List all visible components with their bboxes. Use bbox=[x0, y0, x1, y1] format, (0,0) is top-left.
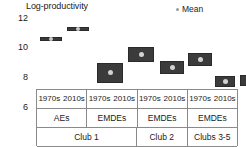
group-cell-aes: AEs bbox=[37, 108, 87, 127]
box-emdes-club1-2010s bbox=[128, 47, 154, 62]
group-cell-emdes-club2: EMDEs bbox=[138, 108, 188, 127]
mean-dot bbox=[108, 70, 113, 75]
period-cell: 1970s bbox=[138, 89, 163, 108]
legend-label-mean: Mean bbox=[182, 4, 203, 14]
category-table: 1970s 2010s 1970s 2010s 1970s 2010s 1970… bbox=[36, 89, 238, 146]
box-aes-2010s bbox=[67, 27, 89, 32]
period-cell: 2010s bbox=[62, 89, 88, 108]
y-tick-12: 12 bbox=[12, 13, 28, 23]
mean-dot bbox=[139, 52, 144, 57]
period-cell: 2010s bbox=[162, 89, 188, 108]
log-productivity-chart: Log-productivity Mean 12 10 8 6 bbox=[0, 0, 246, 147]
mean-dot bbox=[49, 37, 53, 41]
mean-marker-icon bbox=[176, 8, 179, 11]
period-cell: 2010s bbox=[212, 89, 237, 108]
period-row: 1970s 2010s 1970s 2010s 1970s 2010s 1970… bbox=[37, 89, 237, 108]
box-emdes-clubs35-2010s bbox=[240, 75, 246, 86]
period-cell: 2010s bbox=[112, 89, 138, 108]
club-cell-35: Clubs 3-5 bbox=[188, 127, 238, 146]
y-axis-title: Log-productivity bbox=[26, 1, 88, 11]
box-emdes-club2-2010s bbox=[188, 53, 212, 67]
mean-dot bbox=[198, 57, 203, 62]
y-tick-10: 10 bbox=[12, 42, 28, 52]
legend: Mean bbox=[176, 4, 203, 14]
box-emdes-club1-1970s bbox=[97, 63, 123, 84]
box-emdes-club2-1970s bbox=[160, 61, 184, 75]
mean-dot bbox=[223, 79, 228, 84]
club-cell-2: Club 2 bbox=[137, 127, 188, 146]
club-cell-1: Club 1 bbox=[37, 127, 137, 146]
group-cell-emdes-club1: EMDEs bbox=[87, 108, 137, 127]
period-cell: 1970s bbox=[87, 89, 112, 108]
club-row: Club 1 Club 2 Clubs 3-5 bbox=[37, 127, 237, 146]
mean-dot bbox=[76, 27, 80, 31]
y-tick-6: 6 bbox=[12, 102, 28, 112]
box-aes-1970s bbox=[40, 37, 62, 42]
period-cell: 1970s bbox=[37, 89, 62, 108]
period-cell: 1970s bbox=[188, 89, 213, 108]
y-tick-8: 8 bbox=[12, 72, 28, 82]
box-emdes-clubs35-1970s bbox=[215, 76, 235, 88]
group-cell-emdes-clubs35: EMDEs bbox=[188, 108, 237, 127]
mean-dot bbox=[170, 65, 175, 70]
group-row: AEs EMDEs EMDEs EMDEs bbox=[37, 108, 237, 127]
